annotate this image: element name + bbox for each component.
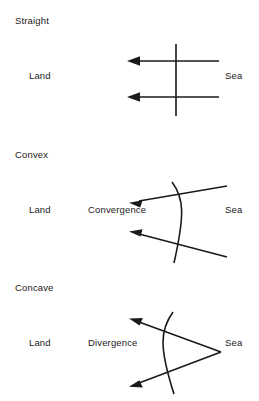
wave-ray-lower (139, 352, 221, 383)
coastline-concave (163, 312, 174, 394)
panel-convex-graphic (0, 134, 259, 268)
panel-convex: Convex Land Convergence Sea (0, 134, 259, 268)
arrowhead-lower-icon (129, 380, 143, 387)
wave-ray-lower (139, 234, 227, 257)
panel-concave-graphic (0, 267, 259, 401)
arrowhead-upper-icon (127, 56, 140, 66)
arrowhead-upper-icon (129, 200, 143, 207)
arrowhead-lower-icon (129, 229, 143, 236)
panel-straight-graphic (0, 0, 259, 134)
arrowhead-lower-icon (127, 92, 140, 102)
wave-ray-upper (139, 322, 221, 352)
arrowhead-upper-icon (129, 318, 143, 325)
panel-concave: Concave Land Divergence Sea (0, 267, 259, 401)
wave-ray-upper (139, 186, 227, 201)
panel-straight: Straight Land Sea (0, 0, 259, 134)
